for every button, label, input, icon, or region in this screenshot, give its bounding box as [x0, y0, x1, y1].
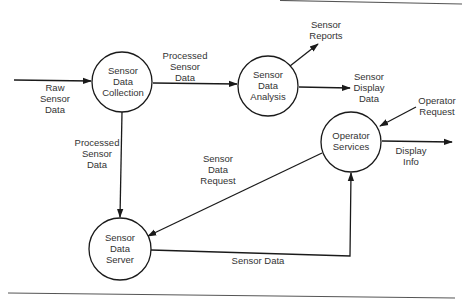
- arrow-icon: [290, 44, 318, 66]
- edge-label: Data: [208, 164, 229, 175]
- edge-label: Processed: [163, 50, 208, 61]
- node-label: Sensor: [108, 65, 138, 76]
- edge-label: Sensor: [170, 61, 200, 72]
- edge-display-info: Display Info: [382, 141, 452, 167]
- edge-label: Display: [395, 145, 426, 156]
- edge-label: Info: [403, 156, 419, 167]
- edge-label: Sensor: [40, 93, 70, 104]
- node-label: Services: [333, 141, 370, 152]
- edge-label: Display: [353, 82, 384, 93]
- edge-raw-sensor-data: Raw Sensor Data: [14, 80, 91, 115]
- arrow-icon: [382, 141, 452, 142]
- edge-label: Sensor: [354, 71, 384, 82]
- arrow-icon: [14, 80, 91, 81]
- arrow-icon: [151, 173, 351, 256]
- node-label: Data: [110, 243, 131, 254]
- edge-label: Operator: [418, 95, 456, 106]
- edge-processed-sensor-data-to-server: Processed Sensor Data: [75, 112, 122, 217]
- edge-label: Sensor: [311, 19, 341, 30]
- edge-sensor-data-request: Sensor Data Request: [148, 153, 322, 236]
- edge-operator-request: Operator Request: [380, 95, 456, 126]
- edge-label: Data: [87, 159, 108, 170]
- edge-processed-sensor-data-to-analysis: Processed Sensor Data: [153, 50, 237, 84]
- edge-label: Processed: [75, 137, 120, 148]
- node-label: Sensor: [253, 69, 283, 80]
- edge-label: Data: [359, 93, 380, 104]
- bottom-page-rule: [8, 293, 455, 298]
- edge-sensor-reports: Sensor Reports: [290, 19, 343, 66]
- edge-label: Raw: [45, 82, 64, 93]
- top-page-rule: [280, 1, 462, 5]
- node-sensor-data-analysis: Sensor Data Analysis: [238, 56, 298, 116]
- node-label: Operator: [332, 130, 370, 141]
- data-flow-diagram: Raw Sensor Data Processed Sensor Data Se…: [0, 0, 467, 305]
- node-label: Collection: [102, 87, 144, 98]
- edge-label: Request: [419, 106, 455, 117]
- node-label: Server: [106, 254, 134, 265]
- edge-label: Sensor: [82, 148, 112, 159]
- edge-label: Data: [175, 72, 196, 83]
- edge-label: Reports: [309, 30, 343, 41]
- node-label: Data: [113, 76, 134, 87]
- node-sensor-data-collection: Sensor Data Collection: [92, 52, 152, 112]
- arrow-icon: [120, 112, 122, 217]
- edge-label: Sensor: [203, 153, 233, 164]
- node-operator-services: Operator Services: [321, 112, 381, 172]
- arrow-icon: [148, 153, 322, 236]
- edge-sensor-display-data: Sensor Display Data: [299, 71, 385, 104]
- arrow-icon: [380, 107, 416, 126]
- arrow-icon: [299, 87, 350, 88]
- node-label: Data: [258, 80, 279, 91]
- node-sensor-data-server: Sensor Data Server: [89, 218, 151, 280]
- node-label: Sensor: [105, 232, 135, 243]
- edge-label: Request: [200, 175, 236, 186]
- arrow-icon: [153, 83, 237, 84]
- edge-label: Sensor Data: [232, 255, 286, 266]
- edge-label: Data: [45, 104, 66, 115]
- node-label: Analysis: [250, 91, 286, 102]
